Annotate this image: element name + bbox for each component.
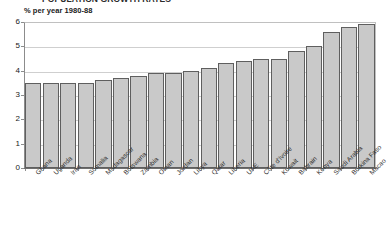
x-axis-tick-mark	[148, 169, 149, 171]
y-axis-tick-mark	[21, 144, 24, 145]
y-axis-tick-mark	[21, 46, 24, 47]
x-axis-tick-mark	[130, 169, 131, 171]
x-axis-tick-mark	[341, 169, 342, 171]
x-axis-tick-mark	[288, 169, 289, 171]
x-axis-category-labels: GhanaUgandaIranSomaliaMadagascarBotswana…	[25, 169, 376, 227]
bar	[183, 71, 199, 168]
bar	[43, 83, 59, 168]
x-axis-tick-mark	[25, 169, 26, 171]
x-axis-tick-mark	[113, 169, 114, 171]
clipped-headline: POPULATION GROWTH RATES	[42, 0, 342, 2]
y-axis-tick-mark	[21, 71, 24, 72]
x-axis-tick-mark	[358, 169, 359, 171]
bar	[201, 68, 217, 168]
y-axis-tick-label: 2	[6, 115, 20, 123]
y-axis-tick-label: 1	[6, 140, 20, 148]
y-axis-tick-mark	[21, 119, 24, 120]
x-axis-tick-mark	[95, 169, 96, 171]
x-axis-tick-mark	[183, 169, 184, 171]
bar	[218, 63, 234, 168]
x-axis-tick-mark	[323, 169, 324, 171]
bar	[306, 46, 322, 168]
clipped-headline-text: POPULATION GROWTH RATES	[42, 0, 342, 2]
x-axis-tick-mark	[78, 169, 79, 171]
y-axis-tick-label: 4	[6, 67, 20, 75]
bar	[165, 73, 181, 168]
y-axis-unit-label: % per year 1980-88	[24, 6, 92, 15]
x-axis-tick-mark	[60, 169, 61, 171]
y-axis-tick-mark	[21, 168, 24, 169]
bar-series	[25, 22, 376, 168]
bar	[78, 83, 94, 168]
bar	[236, 61, 252, 168]
y-axis-tick-mark	[21, 22, 24, 23]
y-axis-tick-label: 3	[6, 91, 20, 99]
bar	[323, 32, 339, 168]
x-axis-tick-mark	[271, 169, 272, 171]
bar	[25, 83, 41, 168]
x-axis-tick-mark	[306, 169, 307, 171]
x-axis-tick-mark	[43, 169, 44, 171]
bar	[253, 59, 269, 169]
x-axis-tick-mark	[165, 169, 166, 171]
y-axis-tick-label: 0	[6, 164, 20, 172]
x-axis-tick-mark	[253, 169, 254, 171]
bar	[148, 73, 164, 168]
y-axis-tick-label: 6	[6, 18, 20, 26]
x-axis-tick-mark	[218, 169, 219, 171]
y-axis-tick-mark	[21, 95, 24, 96]
x-axis-tick-mark	[236, 169, 237, 171]
y-axis-tick-label: 5	[6, 42, 20, 50]
x-axis-tick-mark	[201, 169, 202, 171]
